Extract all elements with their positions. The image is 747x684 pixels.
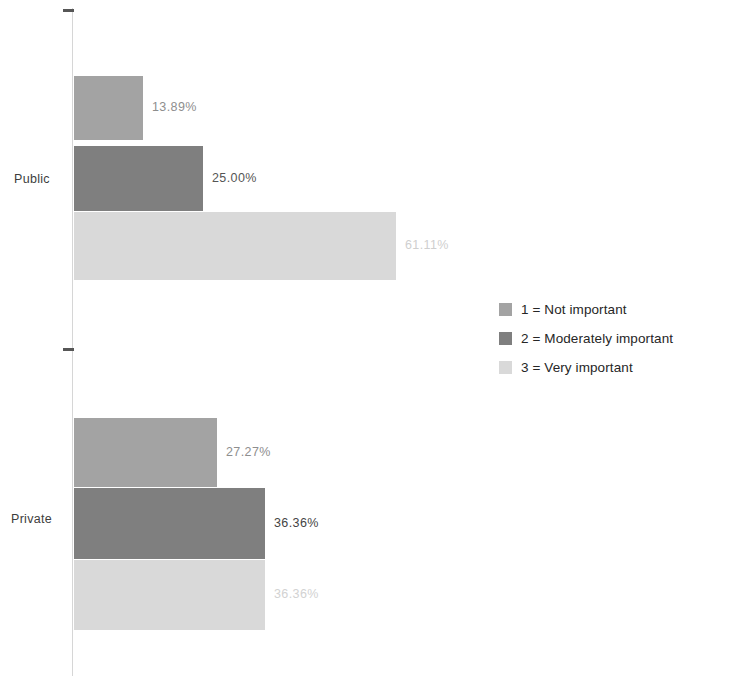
category-label-private: Private xyxy=(11,512,52,526)
bar-value-label: 27.27% xyxy=(226,445,271,459)
bar-value-label: 36.36% xyxy=(274,587,319,601)
axis-tick-middle xyxy=(63,348,74,351)
legend-label-1: 1 = Not important xyxy=(521,302,627,317)
bar xyxy=(74,488,265,559)
bar xyxy=(74,560,265,630)
bar-value-label: 36.36% xyxy=(274,516,319,530)
legend-swatch-icon-3 xyxy=(499,361,512,374)
legend-swatch-icon-2 xyxy=(499,332,512,345)
bar xyxy=(74,418,217,487)
bar xyxy=(74,146,203,211)
bar-value-label: 61.11% xyxy=(405,238,449,252)
bar-chart: Public Private 13.89%25.00%61.11%27.27%3… xyxy=(0,0,747,684)
bar xyxy=(74,76,143,140)
legend-swatch-icon-1 xyxy=(499,303,512,316)
category-axis-line xyxy=(72,8,73,676)
chart-legend: 1 = Not important 2 = Moderately importa… xyxy=(499,295,673,382)
legend-label-2: 2 = Moderately important xyxy=(521,331,673,346)
legend-label-3: 3 = Very important xyxy=(521,360,633,375)
legend-item-1[interactable]: 1 = Not important xyxy=(499,295,673,324)
legend-item-2[interactable]: 2 = Moderately important xyxy=(499,324,673,353)
axis-tick-top xyxy=(63,9,74,12)
bar-value-label: 13.89% xyxy=(152,100,197,114)
bar xyxy=(74,212,396,280)
legend-item-3[interactable]: 3 = Very important xyxy=(499,353,673,382)
bar-value-label: 25.00% xyxy=(212,171,257,185)
category-label-public: Public xyxy=(14,172,50,186)
